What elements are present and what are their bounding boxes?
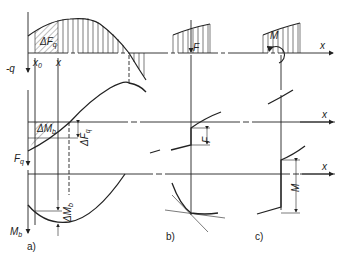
panel-c-caption: c) [255,232,263,242]
delta-fq-dim-label: ΔFq [80,129,91,146]
panel-a-caption: a) [27,242,36,252]
shear-diagram [28,82,335,195]
mb-axis-label: Mb [10,227,22,238]
m-jump-label: M [291,184,301,192]
beam-diagram: ΔFq -q x0 x F M x ΔMb ΔFq Fq F x ΔMb Mb … [0,0,343,260]
x-label: x [56,58,61,68]
moment-m-label: M [270,31,278,41]
x0-label: x0 [33,58,42,69]
delta-fq-area-label: ΔFq [40,37,57,48]
f-jump-label: F [202,137,212,143]
x-axis-mid-label: x [322,110,327,120]
force-f-label: F [193,43,199,53]
delta-mb-area-label: ΔMb [37,124,56,135]
load-diagram [28,12,333,80]
neg-q-axis-label: -q [6,64,15,74]
fq-axis-label: Fq [14,154,24,165]
x-axis-top-label: x [320,41,325,51]
delta-mb-dim-label: ΔMb [63,203,74,222]
x-axis-bot-label: x [322,162,327,172]
moment-diagram [28,146,335,236]
panel-b-caption: b) [166,232,175,242]
